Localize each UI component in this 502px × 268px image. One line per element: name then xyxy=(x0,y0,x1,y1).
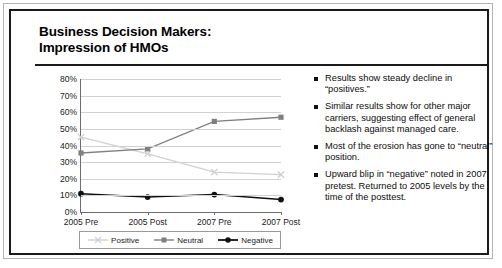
bullet-item: Results show steady decline in “positive… xyxy=(314,73,494,96)
chart-gridline xyxy=(81,195,281,196)
data-point-neutral xyxy=(78,150,83,155)
x-axis-tick-label: 2007 Pre xyxy=(197,217,232,227)
x-axis-tick-label: 2005 Post xyxy=(129,217,167,227)
bullet-item: Similar results show for other major car… xyxy=(314,101,494,135)
legend-label-negative: Negative xyxy=(241,236,273,245)
x-axis-tick-mark xyxy=(81,212,82,215)
y-axis-tick-label: 10% xyxy=(60,190,77,200)
data-point-neutral xyxy=(212,119,217,124)
chart-gridline xyxy=(81,162,281,163)
bullet-square-icon xyxy=(314,145,318,149)
y-axis-tick-label: 60% xyxy=(60,107,77,117)
legend-swatch-positive xyxy=(87,235,109,245)
bullet-text: Most of the erosion has gone to “neutral… xyxy=(325,141,492,162)
data-point-negative xyxy=(278,197,284,203)
x-axis-tick-mark xyxy=(148,212,149,215)
slide-inner-frame: Business Decision Makers: Impression of … xyxy=(9,9,489,255)
bullet-text: Results show steady decline in “positive… xyxy=(325,73,452,94)
chart-gridline xyxy=(81,79,281,80)
bullet-text: Upward blip in “negative” noted in 2007 … xyxy=(325,169,487,202)
legend-swatch-negative xyxy=(217,235,239,245)
chart-legend: PositiveNeutralNegative xyxy=(79,231,281,249)
x-axis-tick-mark xyxy=(281,212,282,215)
data-point-neutral xyxy=(278,115,283,120)
bullet-item: Most of the erosion has gone to “neutral… xyxy=(314,141,494,164)
slide-outer-frame: Business Decision Makers: Impression of … xyxy=(3,3,493,259)
legend-item-negative: Negative xyxy=(217,235,273,245)
title-divider xyxy=(35,64,487,66)
chart-gridline xyxy=(81,179,281,180)
slide-title: Business Decision Makers: Impression of … xyxy=(39,24,319,55)
x-axis-tick-mark xyxy=(214,212,215,215)
y-axis-tick-label: 70% xyxy=(60,91,77,101)
x-axis-tick-label: 2007 Post xyxy=(262,217,300,227)
series-line-positive xyxy=(81,137,281,174)
data-point-neutral xyxy=(145,146,150,151)
bullet-item: Upward blip in “negative” noted in 2007 … xyxy=(314,169,494,203)
y-axis-tick-label: 50% xyxy=(60,124,77,134)
chart-gridline xyxy=(81,112,281,113)
y-axis-tick-label: 40% xyxy=(60,141,77,151)
line-chart: 0%10%20%30%40%50%60%70%80%2005 Pre2005 P… xyxy=(31,71,301,261)
y-axis-tick-label: 30% xyxy=(60,157,77,167)
legend-label-neutral: Neutral xyxy=(177,236,203,245)
chart-gridline xyxy=(81,129,281,130)
legend-label-positive: Positive xyxy=(111,236,139,245)
bullet-square-icon xyxy=(314,173,318,177)
bullet-square-icon xyxy=(314,105,318,109)
chart-gridline xyxy=(81,96,281,97)
chart-gridline xyxy=(81,146,281,147)
legend-item-neutral: Neutral xyxy=(153,235,203,245)
bullet-square-icon xyxy=(314,77,318,81)
bullet-list: Results show steady decline in “positive… xyxy=(314,73,494,209)
y-axis-tick-label: 20% xyxy=(60,174,77,184)
x-axis-tick-label: 2005 Pre xyxy=(64,217,99,227)
legend-item-positive: Positive xyxy=(87,235,139,245)
legend-swatch-neutral xyxy=(153,235,175,245)
y-axis-tick-label: 80% xyxy=(60,74,77,84)
y-axis-tick-label: 0% xyxy=(65,207,77,217)
series-line-neutral xyxy=(81,117,281,153)
chart-plot-area: 0%10%20%30%40%50%60%70%80%2005 Pre2005 P… xyxy=(80,79,281,213)
bullet-text: Similar results show for other major car… xyxy=(325,101,475,134)
